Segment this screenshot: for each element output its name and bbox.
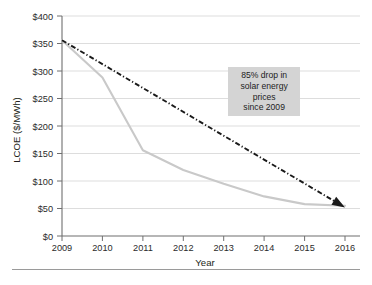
y-tick-label-50: $50 bbox=[38, 204, 53, 214]
chart-figure: $400 $350 $300 $250 $200 $150 $100 $50 $… bbox=[0, 0, 372, 285]
y-axis: $400 $350 $300 $250 $200 $150 $100 $50 $… bbox=[11, 12, 62, 242]
y-tick-label-100: $100 bbox=[33, 177, 53, 187]
x-axis-title: Year bbox=[195, 257, 215, 268]
footer-caption-remnant bbox=[60, 275, 318, 282]
annotation-line-4: since 2009 bbox=[232, 102, 296, 113]
x-tick-label-2012: 2012 bbox=[173, 243, 193, 253]
y-axis-title: LCOE ($/MWh) bbox=[11, 97, 22, 163]
y-tick-label-250: $250 bbox=[33, 94, 53, 104]
y-tick-label-400: $400 bbox=[33, 12, 53, 22]
y-tick-label-0: $0 bbox=[43, 232, 53, 242]
y-tick-label-200: $200 bbox=[33, 122, 53, 132]
annotation-line-1: 85% drop in bbox=[232, 70, 296, 81]
x-tick-label-2016: 2016 bbox=[335, 243, 355, 253]
x-tick-label-2015: 2015 bbox=[294, 243, 314, 253]
x-tick-label-2013: 2013 bbox=[213, 243, 233, 253]
annotation-line-2: solar energy bbox=[232, 81, 296, 92]
x-tick-label-2014: 2014 bbox=[254, 243, 274, 253]
y-tick-label-150: $150 bbox=[33, 149, 53, 159]
x-axis: 2009 2010 2011 2012 2013 2014 2015 2016 … bbox=[52, 236, 360, 268]
footer-divider bbox=[12, 269, 360, 270]
price-drop-annotation: 85% drop in solar energy prices since 20… bbox=[228, 67, 300, 116]
y-tick-label-300: $300 bbox=[33, 67, 53, 77]
lcoe-line-chart: $400 $350 $300 $250 $200 $150 $100 $50 $… bbox=[0, 0, 372, 285]
y-tick-label-350: $350 bbox=[33, 39, 53, 49]
x-tick-label-2010: 2010 bbox=[92, 243, 112, 253]
series-line-trend-arrow bbox=[62, 40, 336, 202]
x-tick-label-2011: 2011 bbox=[133, 243, 153, 253]
annotation-line-3: prices bbox=[232, 92, 296, 103]
x-tick-label-2009: 2009 bbox=[52, 243, 72, 253]
